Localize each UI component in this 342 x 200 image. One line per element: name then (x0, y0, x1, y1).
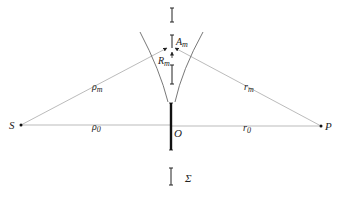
zone-plate (169, 103, 173, 150)
label-r-0: r0 (243, 122, 251, 135)
sigma-bar (169, 168, 173, 185)
label-P: P (324, 120, 332, 132)
mid-bar (170, 65, 174, 84)
label-R-m: Rm (157, 55, 170, 68)
label-rho-0: ρ0 (91, 121, 101, 134)
fresnel-diagram: S P O Σ ρm rm ρ0 r0 Am Rm (0, 0, 342, 200)
label-r-m: rm (244, 81, 254, 94)
label-O: O (174, 127, 182, 139)
label-S: S (9, 119, 15, 131)
am-bar (170, 35, 174, 48)
observer-point (320, 125, 323, 128)
source-point (20, 124, 23, 127)
label-sigma: Σ (184, 172, 192, 184)
label-A-m: Am (175, 36, 188, 49)
top-bar (170, 8, 174, 22)
